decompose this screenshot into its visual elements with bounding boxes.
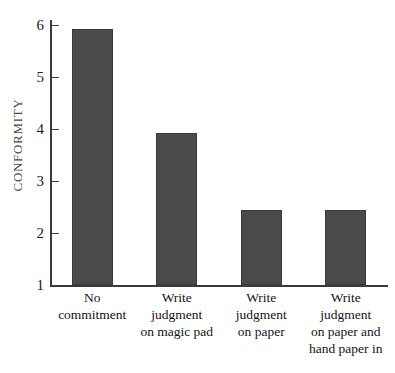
x-axis-labels: NocommitmentWritejudgmenton magic padWri…: [50, 289, 388, 371]
y-axis-tick-mark: [51, 25, 59, 26]
y-axis-tick-mark: [51, 233, 59, 234]
x-axis-label-line: hand paper in: [291, 340, 395, 357]
x-axis-line: [50, 285, 388, 287]
x-axis-label: Writejudgmenton paper andhand paper in: [291, 289, 395, 357]
y-axis-tick-label: 2: [37, 226, 45, 241]
y-axis-line: [50, 20, 52, 286]
y-axis-title: CONFORMITY: [0, 0, 36, 290]
bar: [72, 29, 113, 285]
bar: [156, 133, 197, 285]
x-axis-label-line: judgment: [291, 306, 395, 323]
y-axis-tick-label: 5: [37, 70, 45, 85]
bar: [325, 210, 366, 285]
y-axis-tick-label: 6: [37, 18, 45, 33]
x-axis-label-line: Write: [291, 289, 395, 306]
y-axis-tick-mark: [51, 129, 59, 130]
y-axis-tick-mark: [51, 181, 59, 182]
x-axis-label-line: on paper and: [291, 323, 395, 340]
bar: [241, 210, 282, 285]
y-axis-tick-mark: [51, 77, 59, 78]
y-axis-title-text: CONFORMITY: [10, 99, 26, 192]
y-axis-tick-label: 4: [37, 122, 45, 137]
bar-chart: CONFORMITY 123456 NocommitmentWritejudgm…: [0, 0, 395, 373]
plot-area: 123456: [50, 20, 388, 286]
y-axis-tick-label: 3: [37, 174, 45, 189]
